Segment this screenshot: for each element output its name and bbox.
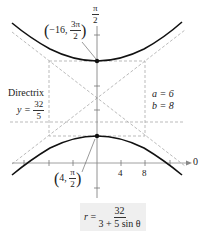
- param-a: a = 6: [152, 89, 174, 99]
- tick-label-8: 8: [142, 169, 147, 178]
- vertex-top-theta-num: 3π: [70, 20, 81, 31]
- directrix-num: 32: [33, 100, 44, 111]
- vertex-top-label: (−16, 3π2): [44, 20, 86, 41]
- vertex-top-theta-den: 2: [73, 31, 78, 41]
- equation: r = 323 + 5 sin θ: [84, 206, 141, 229]
- tick-label-4: 4: [118, 169, 123, 178]
- vertex-bottom-point: [95, 134, 99, 138]
- directrix-equation: y = 325: [17, 100, 44, 121]
- vertex-top-r: −16,: [49, 24, 67, 35]
- equation-denominator: 3 + 5 sin θ: [99, 218, 141, 229]
- axis-label-zero: 0: [193, 157, 198, 167]
- leader-bottom: [82, 139, 95, 172]
- leader-top: [82, 42, 96, 59]
- directrix-title: Directrix: [8, 88, 44, 98]
- vertex-bottom-r: 4,: [59, 172, 67, 183]
- equation-lhs: r: [84, 211, 88, 222]
- axis-label-pi-over-2: π2: [92, 4, 99, 25]
- param-b: b = 8: [152, 101, 174, 111]
- equation-equals: =: [90, 211, 96, 222]
- vertex-top-point: [95, 59, 99, 63]
- vertex-bottom-theta-den: 2: [70, 179, 75, 189]
- pi-den: 2: [93, 15, 98, 25]
- directrix-den: 5: [36, 111, 41, 121]
- equation-numerator: 32: [114, 206, 126, 218]
- pi-num: π: [92, 4, 99, 15]
- directrix-lhs: y =: [17, 104, 31, 115]
- polar-axis-arrow: [186, 161, 192, 166]
- paren-close: ): [81, 22, 86, 39]
- paren-close: ): [76, 170, 81, 187]
- vertex-bottom-label: (4, π2): [54, 168, 81, 189]
